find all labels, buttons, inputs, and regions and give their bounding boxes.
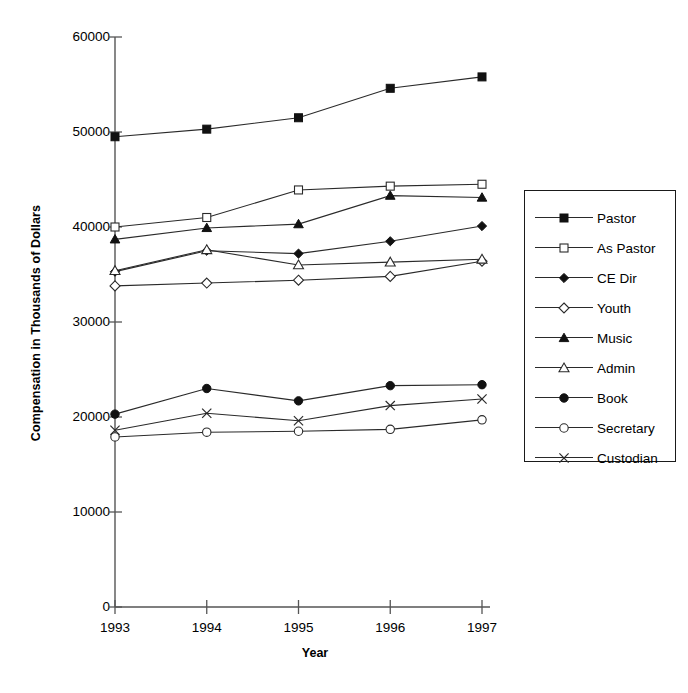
- marker-filled-circle: [111, 410, 119, 418]
- marker-filled-diamond: [559, 273, 568, 282]
- line-chart: Compensation in Thousands of Dollars Yea…: [0, 0, 688, 693]
- marker-open-diamond: [110, 281, 120, 291]
- legend-item-label: Music: [597, 331, 632, 346]
- legend-marker-sample: [531, 388, 597, 408]
- data-point-marker: [560, 424, 568, 432]
- marker-open-circle: [203, 428, 211, 436]
- data-point-marker: [559, 303, 569, 313]
- data-point-marker: [477, 221, 486, 230]
- series-secretary: [111, 416, 486, 442]
- legend-marker-sample: [531, 298, 597, 318]
- marker-filled-square: [295, 114, 303, 122]
- data-point-marker: [203, 125, 211, 133]
- legend-marker-icon: [554, 268, 574, 288]
- marker-open-square: [203, 214, 211, 222]
- legend-item-label: CE Dir: [597, 271, 637, 286]
- marker-open-diamond: [559, 303, 569, 313]
- legend-marker-sample: [531, 208, 597, 228]
- data-point-marker: [294, 249, 303, 258]
- marker-open-circle: [560, 424, 568, 432]
- legend-item-label: Custodian: [597, 451, 658, 466]
- data-point-marker: [294, 275, 304, 285]
- marker-filled-circle: [478, 381, 486, 389]
- marker-filled-square: [386, 84, 394, 92]
- legend-item-secretary[interactable]: Secretary: [525, 413, 677, 443]
- legend-item-ce-dir[interactable]: CE Dir: [525, 263, 677, 293]
- marker-open-square: [111, 223, 119, 231]
- marker-open-circle: [478, 416, 486, 424]
- legend-marker-icon: [554, 448, 574, 468]
- marker-open-diamond: [294, 275, 304, 285]
- legend-marker-sample: [531, 238, 597, 258]
- marker-filled-square: [560, 214, 568, 222]
- data-point-marker: [385, 271, 395, 281]
- marker-open-square: [560, 244, 568, 252]
- marker-filled-triangle: [559, 333, 569, 341]
- data-point-marker: [478, 73, 486, 81]
- data-point-marker: [294, 397, 302, 405]
- marker-filled-circle: [560, 394, 568, 402]
- legend-item-admin[interactable]: Admin: [525, 353, 677, 383]
- legend-item-as-pastor[interactable]: As Pastor: [525, 233, 677, 263]
- legend-marker-icon: [554, 358, 574, 378]
- marker-filled-square: [111, 133, 119, 141]
- marker-open-square: [295, 186, 303, 194]
- series-pastor: [111, 73, 486, 141]
- legend-marker-sample: [531, 448, 597, 468]
- data-point-marker: [559, 363, 569, 372]
- marker-filled-circle: [294, 397, 302, 405]
- legend-marker-icon: [554, 328, 574, 348]
- data-point-marker: [386, 425, 394, 433]
- marker-open-square: [386, 182, 394, 190]
- marker-filled-diamond: [477, 221, 486, 230]
- legend-item-custodian[interactable]: Custodian: [525, 443, 677, 473]
- legend-item-label: Secretary: [597, 421, 655, 436]
- legend-marker-sample: [531, 328, 597, 348]
- marker-open-diamond: [385, 271, 395, 281]
- legend-marker-sample: [531, 268, 597, 288]
- marker-open-triangle: [477, 254, 487, 263]
- series-book: [111, 381, 486, 419]
- data-point-marker: [386, 381, 394, 389]
- marker-filled-diamond: [386, 237, 395, 246]
- legend-item-music[interactable]: Music: [525, 323, 677, 353]
- legend-item-label: Book: [597, 391, 628, 406]
- data-point-marker: [203, 428, 211, 436]
- marker-filled-circle: [386, 381, 394, 389]
- legend-item-label: Pastor: [597, 211, 636, 226]
- marker-open-circle: [386, 425, 394, 433]
- legend-item-youth[interactable]: Youth: [525, 293, 677, 323]
- data-point-marker: [386, 84, 394, 92]
- legend-item-book[interactable]: Book: [525, 383, 677, 413]
- marker-filled-diamond: [294, 249, 303, 258]
- data-point-marker: [560, 244, 568, 252]
- marker-filled-circle: [203, 384, 211, 392]
- data-point-marker: [478, 416, 486, 424]
- data-point-marker: [559, 333, 569, 341]
- data-point-marker: [385, 191, 395, 199]
- data-point-marker: [478, 180, 486, 188]
- data-point-marker: [478, 381, 486, 389]
- data-point-marker: [111, 133, 119, 141]
- legend-item-label: As Pastor: [597, 241, 656, 256]
- marker-open-square: [478, 180, 486, 188]
- data-point-marker: [560, 214, 568, 222]
- data-point-marker: [295, 114, 303, 122]
- data-point-marker: [559, 273, 568, 282]
- data-point-marker: [203, 214, 211, 222]
- data-point-marker: [386, 237, 395, 246]
- marker-open-diamond: [202, 278, 212, 288]
- data-point-marker: [111, 410, 119, 418]
- series-line: [115, 196, 482, 240]
- marker-open-triangle: [559, 363, 569, 372]
- data-point-marker: [110, 281, 120, 291]
- series-line: [115, 77, 482, 137]
- data-point-marker: [295, 186, 303, 194]
- marker-open-circle: [294, 427, 302, 435]
- data-point-marker: [203, 384, 211, 392]
- legend-marker-sample: [531, 358, 597, 378]
- legend-item-pastor[interactable]: Pastor: [525, 203, 677, 233]
- data-point-marker: [477, 254, 487, 263]
- legend-marker-icon: [554, 418, 574, 438]
- legend-marker-icon: [554, 388, 574, 408]
